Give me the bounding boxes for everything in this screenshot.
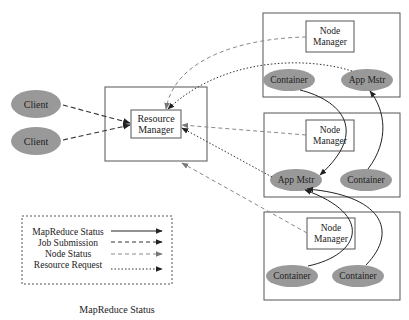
- node-1: Node Manager Container App Mstr: [263, 13, 400, 97]
- node-manager-label-2: Manager: [314, 234, 349, 244]
- legend: MapReduce Status Job Submission Node Sta…: [22, 216, 172, 284]
- legend-label-resource-request: Resource Request: [34, 260, 103, 270]
- container-label: Container: [339, 271, 377, 281]
- node-manager-label-2: Manager: [313, 37, 348, 47]
- diagram-caption: MapReduce Status: [79, 304, 154, 315]
- legend-label-job-submission: Job Submission: [38, 238, 98, 248]
- resource-manager-group: Resource Manager: [105, 87, 207, 161]
- container-label: Container: [270, 75, 308, 85]
- app-master-label: App Mstr: [349, 75, 387, 85]
- container-label: Container: [347, 175, 385, 185]
- resource-manager-label-2: Manager: [138, 124, 174, 135]
- node-manager-label-2: Manager: [313, 136, 348, 146]
- app-master-label: App Mstr: [278, 175, 316, 185]
- node-manager-label-1: Node: [320, 125, 341, 135]
- node-manager-label-1: Node: [320, 26, 341, 36]
- legend-label-mapreduce-status: MapReduce Status: [32, 227, 104, 237]
- client-label: Client: [24, 136, 49, 147]
- client-1: Client: [11, 90, 61, 118]
- resource-manager-label-1: Resource: [137, 113, 175, 124]
- client-label: Client: [24, 99, 49, 110]
- client-2: Client: [11, 127, 61, 155]
- yarn-architecture-diagram: Resource Manager Client Client Node Mana…: [0, 0, 409, 320]
- container-label: Container: [273, 271, 311, 281]
- node-2: Node Manager App Mstr Container: [264, 113, 400, 197]
- node-3: Node Manager Container Container: [264, 212, 400, 300]
- node-manager-label-1: Node: [321, 223, 342, 233]
- legend-label-node-status: Node Status: [45, 249, 91, 259]
